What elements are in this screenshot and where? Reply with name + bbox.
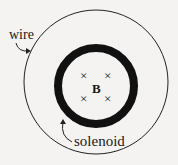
solenoid-label: solenoid [74,133,125,149]
field-marker: × [104,68,111,83]
diagram-canvas: wire × × × × B solenoid [0,0,178,165]
field-marker: × [80,68,87,83]
field-marker: × [80,91,87,106]
field-marker: × [104,91,111,106]
solenoid-arrowhead-icon [60,119,66,124]
field-label: B [92,81,101,96]
solenoid-arrow-icon [62,122,72,142]
wire-label: wire [9,27,34,42]
